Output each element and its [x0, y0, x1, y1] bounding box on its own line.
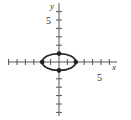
x-axis-label: x	[111, 62, 116, 72]
data-point	[57, 51, 62, 56]
data-point	[40, 60, 45, 65]
data-point	[74, 60, 79, 65]
y-tick-label-5: 5	[46, 15, 51, 26]
y-axis-label: y	[49, 1, 54, 11]
ellipse-graph: y 5 x 5	[0, 0, 131, 120]
x-tick-label-5: 5	[97, 72, 102, 83]
data-point	[57, 68, 62, 73]
